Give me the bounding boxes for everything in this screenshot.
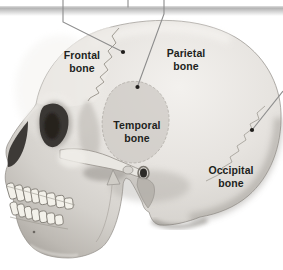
- label-parietal-bone-line1: Parietal: [167, 47, 206, 59]
- jaw-condyle: [123, 166, 133, 174]
- anchor-dot-lambdoid: [250, 128, 254, 132]
- ear-canal: [140, 169, 147, 178]
- label-occipital-bone-line2: bone: [218, 177, 244, 189]
- label-frontal-bone-line1: Frontal: [64, 49, 100, 61]
- anchor-dot-squamous: [135, 85, 139, 89]
- anchor-dot-coronal: [121, 50, 125, 54]
- skull-lateral-figure: Frontal bone Parietal bone Temporal bone…: [0, 0, 283, 270]
- label-temporal-bone-line1: Temporal: [113, 119, 160, 131]
- skull-diagram-svg: Frontal bone Parietal bone Temporal bone…: [0, 0, 283, 270]
- frame-shadow-band: [0, 8, 283, 17]
- label-frontal-bone-line2: bone: [69, 62, 95, 74]
- eye-socket-depth: [44, 113, 60, 139]
- label-temporal-bone-line2: bone: [124, 132, 150, 144]
- label-parietal-bone-line2: bone: [173, 60, 199, 72]
- label-occipital-bone-line1: Occipital: [208, 164, 253, 176]
- mental-foramen: [33, 231, 36, 234]
- figure-top-frame: [0, 0, 283, 16]
- cheekbone-highlight: [58, 148, 86, 168]
- frame-hairline: [0, 7, 283, 8]
